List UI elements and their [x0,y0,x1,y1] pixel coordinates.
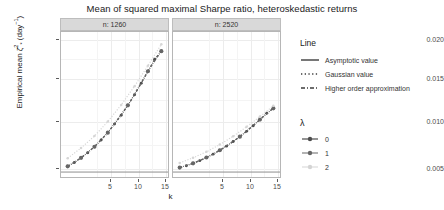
series-point [133,85,136,88]
series-point [66,157,69,160]
legend-item-higher-order-approximation[interactable]: Higher order approximation [300,81,442,95]
legend-key-dashdot-line-icon [300,81,320,95]
series-point [245,126,248,129]
chart-figure: Mean of squared maximal Sharpe ratio, he… [0,0,444,210]
series-point [92,145,96,149]
legend-item-lambda-2[interactable]: 2 [300,160,442,174]
legend-label: 1 [325,150,329,157]
legend-item-asymptotic-value[interactable]: Asymptotic value [300,53,442,67]
y-axis-title-text: Empirical mean [15,51,24,108]
series-point [219,143,222,146]
x-tick-label: 15 [267,183,287,190]
y-tick-mark [56,39,59,40]
panel-series-2520 [173,32,280,177]
series-line [180,106,274,163]
legend-key-point-line-icon [300,146,320,160]
series-point [146,69,150,73]
series-point [80,147,83,150]
y-tick-mark [56,121,59,122]
series-point [272,105,275,108]
x-tick-label: 15 [155,183,175,190]
legend-line-title: Line [300,38,442,48]
series-line [68,44,162,158]
legend-lambda-title: λ [300,118,442,128]
series-point [66,164,70,168]
panel-strip-n-2520: n: 2520 [172,18,281,31]
legend-item-lambda-1[interactable]: 1 [300,146,442,160]
legend-item-gaussian-value[interactable]: Gaussian value [300,67,442,81]
series-point [126,103,130,107]
y-tick-mark [56,168,59,169]
x-tick-mark [277,179,278,182]
series-point [178,162,181,165]
x-tick-mark [138,179,139,182]
x-tick-label: 10 [240,183,260,190]
legend-label: Gaussian value [325,71,373,78]
series-point [120,104,123,107]
series-point [147,64,150,67]
series-point [106,131,110,135]
legend-key-point-line-icon [300,160,320,174]
series-point [159,49,163,53]
series-point [93,135,96,138]
chart-title: Mean of squared maximal Sharpe ratio, he… [0,3,444,14]
x-tick-label: 5 [212,183,232,190]
series-point [191,161,195,165]
x-tick-label: 10 [128,183,148,190]
panel-series-1260 [61,32,168,177]
series-point [232,135,235,138]
legend-label: Higher order approximation [325,85,410,92]
y-axis-title: Empirical mean ζ̂2* (day−1) [13,0,25,137]
panel-strip-n-1260: n: 1260 [60,18,169,31]
legend-label: 0 [325,136,329,143]
panel-n-1260 [60,31,169,178]
series-point [79,156,83,160]
series-point [205,151,208,154]
series-point [204,155,208,159]
series-point [107,120,110,123]
x-tick-mark [165,179,166,182]
legend-lambda: λ 0 1 2 [300,118,442,174]
y-tick-mark [56,78,59,79]
legend-key-dotted-line-icon [300,67,320,81]
legend-key-point-line-icon [300,132,320,146]
legend-label: Asymptotic value [325,57,378,64]
panel-strip-label: n: 2520 [215,21,238,28]
panel-strip-label: n: 1260 [103,21,126,28]
series-point [238,135,242,139]
series-point [192,157,195,160]
x-tick-mark [110,179,111,182]
panel-n-2520 [172,31,281,178]
legend-key-solid-line-icon [300,53,320,67]
legend-item-lambda-0[interactable]: 0 [300,132,442,146]
y-axis-symbol: ζ̂2* [15,42,24,51]
series-point [259,115,262,118]
x-tick-label: 5 [100,183,120,190]
x-axis-title: k [60,192,281,201]
x-tick-mark [250,179,251,182]
y-axis-unit: (day−1) [15,16,24,43]
series-point [178,166,182,170]
legend-line: Line Asymptotic value Gaussian value Hig… [300,38,442,95]
series-point [160,43,163,46]
x-tick-mark [222,179,223,182]
legend-label: 2 [325,164,329,171]
series-point [218,148,222,152]
